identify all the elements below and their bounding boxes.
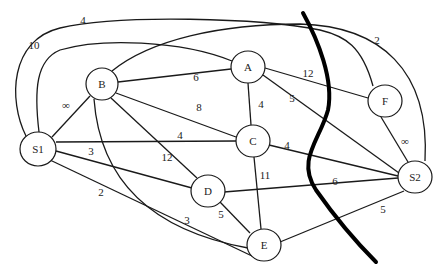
edge-weight-label: 5	[218, 208, 224, 220]
edge-c-e	[254, 157, 261, 229]
node-e: E	[247, 229, 281, 261]
edge-weight-label: 3	[88, 145, 94, 157]
edge-e-s2	[280, 191, 404, 242]
node-f: F	[368, 85, 402, 117]
edge-weight-label: 8	[196, 101, 202, 113]
node-a: A	[231, 51, 265, 83]
edge-weight-label: 11	[260, 169, 271, 181]
node-label: S2	[409, 171, 421, 183]
node-label: D	[204, 185, 212, 197]
edge-weight-label: 4	[284, 139, 290, 151]
nodes-layer: S1BAFCDES2	[20, 51, 432, 261]
edge-b-a	[118, 69, 231, 82]
cut-line	[303, 13, 376, 262]
node-c: C	[236, 125, 270, 157]
node-label: B	[98, 78, 105, 90]
edge-s1-c	[56, 141, 236, 142]
flow-network-diagram: S1BAFCDES2 4102∞681234324125∞411655	[0, 0, 447, 277]
edge-a-f	[265, 68, 368, 98]
edge-weight-label: 4	[258, 98, 264, 110]
edge-b-d	[111, 98, 197, 178]
edge-weight-label: 4	[80, 14, 86, 26]
edge-s1-b	[52, 96, 90, 137]
edge-weight-label: 6	[193, 71, 199, 83]
node-d: D	[191, 175, 225, 207]
edge-weight-label: 2	[374, 34, 380, 46]
edge-weight-label: 2	[98, 186, 104, 198]
edge-weight-label: 12	[162, 151, 173, 163]
node-label: C	[249, 135, 256, 147]
node-label: E	[261, 239, 268, 251]
edge-weight-label: 12	[303, 67, 314, 79]
edge-weight-label: 3	[184, 214, 190, 226]
edge-d-e	[220, 202, 250, 233]
node-s2: S2	[398, 161, 432, 193]
edge-weight-label: 4	[177, 129, 183, 141]
node-label: F	[382, 95, 388, 107]
edge-b-c	[116, 93, 236, 137]
cut-layer	[303, 13, 376, 262]
node-label: S1	[32, 143, 44, 155]
edge-weight-label: 5	[289, 92, 295, 104]
edges-layer	[16, 19, 426, 256]
edge-a-c	[248, 83, 251, 125]
node-s1: S1	[20, 132, 56, 166]
edge-weight-label: 6	[332, 175, 338, 187]
edge-weight-label: ∞	[62, 99, 70, 111]
edge-weight-label: 5	[380, 203, 386, 215]
node-label: A	[244, 61, 252, 73]
edge-weight-label: ∞	[401, 135, 409, 147]
edge-weight-label: 10	[29, 39, 41, 51]
node-b: B	[86, 68, 118, 100]
edge-b-e	[94, 99, 248, 248]
